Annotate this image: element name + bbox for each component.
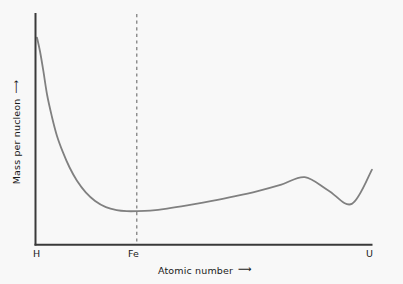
x-axis-title: Atomic number⟶ bbox=[158, 263, 252, 276]
y-axis-title-inner: Mass per nucleon⟶ bbox=[10, 80, 23, 185]
x-tick-label-fe: Fe bbox=[128, 248, 139, 259]
y-axis-title-text: Mass per nucleon bbox=[11, 99, 22, 185]
y-axis-title: Mass per nucleon⟶ bbox=[5, 72, 27, 192]
x-axis-arrow-icon: ⟶ bbox=[238, 263, 252, 274]
plot-canvas bbox=[0, 0, 403, 284]
x-axis-title-text: Atomic number bbox=[158, 265, 233, 276]
y-axis-arrow-icon: ⟶ bbox=[10, 80, 21, 94]
x-tick-label-h: H bbox=[33, 248, 40, 259]
chart-figure: H Fe U Atomic number⟶ Mass per nucleon⟶ bbox=[0, 0, 403, 284]
plot-background bbox=[0, 0, 403, 284]
x-tick-label-u: U bbox=[366, 248, 373, 259]
